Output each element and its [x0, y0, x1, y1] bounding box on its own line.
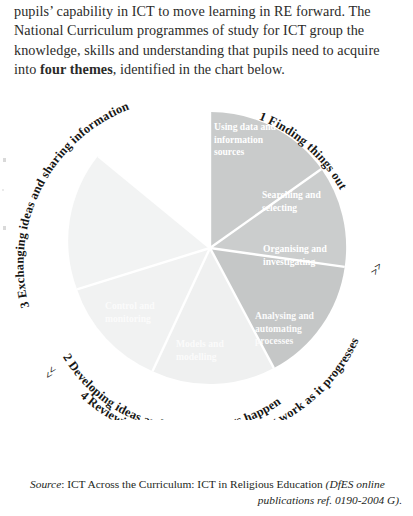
- ict-themes-pie-chart: Using data and information sources Searc…: [0, 80, 413, 420]
- arrow-left-icon: <<: [42, 364, 59, 381]
- source-line2-italic: publications ref. 0190-2004 G).: [258, 494, 402, 506]
- intro-bold-four-themes: four themes: [40, 61, 113, 77]
- intro-paragraph: pupils’ capability in ICT to move learni…: [14, 2, 402, 80]
- segment-label-control-and-monitoring: Control and monitoring: [105, 300, 157, 324]
- source-line1-plain: : ICT Across the Curriculum: ICT in Reli…: [61, 478, 325, 490]
- intro-text-after-bold: , identified in the chart below.: [113, 61, 285, 77]
- source-line1-italic: (DfES online: [326, 478, 385, 490]
- source-caption: Source: ICT Across the Curriculum: ICT i…: [30, 476, 402, 508]
- arrow-right-icon: >>: [368, 260, 385, 277]
- source-label: Source: [30, 478, 61, 490]
